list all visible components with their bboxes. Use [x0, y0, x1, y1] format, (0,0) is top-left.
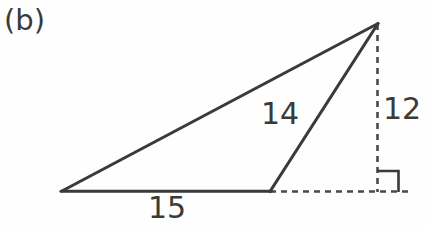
panel-label: (b) — [4, 6, 45, 35]
right-angle-marker — [378, 171, 399, 192]
base-length-label: 15 — [148, 193, 186, 223]
geometry-figure: (b) 15 14 12 — [0, 0, 426, 226]
triangle-diagram-svg — [0, 0, 426, 226]
height-length-label: 12 — [383, 94, 421, 124]
hypotenuse-edge — [62, 24, 378, 192]
cevian-length-label: 14 — [261, 99, 299, 129]
